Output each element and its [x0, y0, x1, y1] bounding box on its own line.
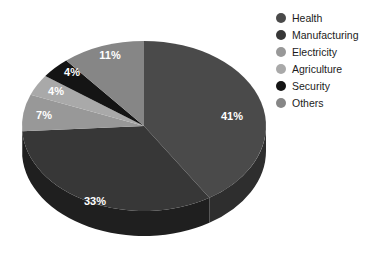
legend-item-agriculture[interactable]: Agriculture: [276, 61, 384, 76]
legend-label-health: Health: [292, 12, 322, 24]
legend-swatch-manufacturing-icon: [276, 30, 286, 40]
legend-label-others: Others: [292, 97, 324, 109]
legend-item-manufacturing[interactable]: Manufacturing: [276, 27, 384, 42]
slice-label-others: 11%: [99, 49, 121, 61]
legend-swatch-security-icon: [276, 81, 286, 91]
legend-item-others[interactable]: Others: [276, 95, 384, 110]
legend-label-security: Security: [292, 80, 330, 92]
legend-item-electricity[interactable]: Electricity: [276, 44, 384, 59]
slice-label-agriculture: 4%: [48, 85, 64, 97]
legend-item-health[interactable]: Health: [276, 10, 384, 25]
legend-label-manufacturing: Manufacturing: [292, 29, 359, 41]
legend-item-security[interactable]: Security: [276, 78, 384, 93]
legend-label-agriculture: Agriculture: [292, 63, 342, 75]
pie-chart: 41% 33% 7% 4% 4% 11% Health Manufacturin…: [0, 0, 386, 263]
legend-swatch-electricity-icon: [276, 47, 286, 57]
slice-label-electricity: 7%: [36, 109, 52, 121]
legend-swatch-agriculture-icon: [276, 64, 286, 74]
chart-legend: Health Manufacturing Electricity Agricul…: [276, 10, 384, 110]
slice-label-security: 4%: [64, 66, 80, 78]
slice-label-health: 41%: [221, 110, 243, 122]
slice-label-manufacturing: 33%: [84, 195, 106, 207]
legend-swatch-others-icon: [276, 98, 286, 108]
legend-label-electricity: Electricity: [292, 46, 337, 58]
legend-swatch-health-icon: [276, 13, 286, 23]
pie-slices: [22, 41, 266, 211]
